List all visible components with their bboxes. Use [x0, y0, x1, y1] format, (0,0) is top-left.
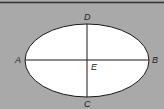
label-E: E	[91, 62, 98, 72]
label-A: A	[14, 55, 21, 65]
label-B: B	[152, 55, 158, 65]
ellipse-diagram: D C A B E	[0, 0, 164, 109]
label-D: D	[84, 12, 91, 22]
label-C: C	[84, 99, 91, 109]
